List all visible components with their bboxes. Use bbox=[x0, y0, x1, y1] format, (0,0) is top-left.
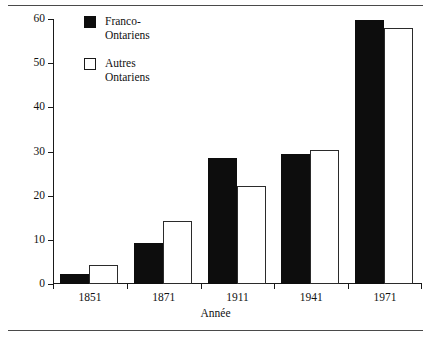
y-tick-label: 50 bbox=[34, 57, 46, 69]
light-square-icon bbox=[84, 58, 96, 70]
bar-1971-autres-ontariens bbox=[384, 28, 413, 284]
y-tick-label: 30 bbox=[34, 146, 46, 158]
bar-1851-franco-ontariens bbox=[60, 274, 89, 284]
x-tick-label-1851: 1851 bbox=[53, 291, 127, 303]
legend-label: Autres Ontariens bbox=[105, 56, 150, 84]
bar-1871-autres-ontariens bbox=[163, 221, 192, 284]
legend-item-autres-ontariens: Autres Ontariens bbox=[84, 56, 150, 84]
y-tick-label: 0 bbox=[39, 278, 45, 290]
legend-item-franco-ontariens: Franco- Ontariens bbox=[84, 14, 150, 42]
bar-1941-autres-ontariens bbox=[310, 150, 339, 284]
dark-square-icon bbox=[84, 16, 96, 28]
bar-1911-franco-ontariens bbox=[208, 158, 237, 284]
x-tick-label-1941: 1941 bbox=[274, 291, 348, 303]
y-tick-label: 60 bbox=[34, 13, 46, 25]
figure-bar-chart: 0102030405060 Pour cent Année Franco- On… bbox=[0, 0, 431, 344]
bar-1851-autres-ontariens bbox=[89, 265, 118, 284]
x-tick-label-1871: 1871 bbox=[127, 291, 201, 303]
x-tick-label-1911: 1911 bbox=[201, 291, 275, 303]
bar-1871-franco-ontariens bbox=[134, 243, 163, 284]
chart-legend: Franco- Ontariens Autres Ontariens bbox=[84, 14, 150, 98]
y-tick-label: 40 bbox=[34, 101, 46, 113]
y-tick-label: 20 bbox=[34, 190, 46, 202]
top-divider-rule bbox=[8, 5, 423, 6]
x-tick-label-1971: 1971 bbox=[348, 291, 422, 303]
bar-1911-autres-ontariens bbox=[237, 186, 266, 284]
y-tick-label: 10 bbox=[34, 234, 46, 246]
bar-1941-franco-ontariens bbox=[281, 154, 310, 284]
bottom-divider-rule bbox=[8, 330, 423, 331]
bar-1971-franco-ontariens bbox=[355, 20, 384, 284]
x-axis-title: Année bbox=[0, 307, 431, 319]
legend-label: Franco- Ontariens bbox=[105, 14, 150, 42]
